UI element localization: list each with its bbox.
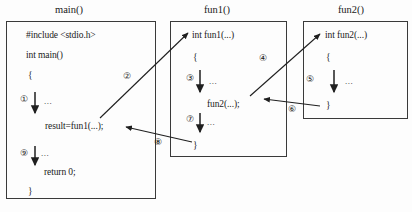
code-fun2-signature: int fun2(...) [325,30,367,40]
step-marker-6: ⑥ [288,105,296,114]
step-marker-7: ⑦ [186,115,194,124]
code-fun1-open-brace: { [193,52,197,62]
ellipsis-fun2-step5: ... [345,76,353,86]
code-main-signature: int main() [26,50,63,60]
ellipsis-main-step1: ... [44,96,52,106]
box-title-fun1: fun1() [194,4,240,15]
ellipsis-main-step9: ... [41,148,49,158]
step-marker-4: ④ [259,54,267,63]
step-marker-1: ① [20,95,28,104]
code-fun1-close-brace: } [193,140,197,150]
step-marker-9: ⑨ [20,149,28,158]
code-fun1-signature: int fun1(...) [192,30,234,40]
code-fun1-call-fun2: fun2(...); [207,99,240,109]
step-marker-3: ③ [186,74,194,83]
code-main-open-brace: { [28,70,32,80]
ellipsis-fun1-step3: ... [209,76,217,86]
box-main [6,21,156,199]
code-main-call-fun1: result=fun1(...); [45,121,103,131]
step-marker-2: ② [123,72,131,81]
code-fun2-open-brace: { [326,52,330,62]
code-main-return: return 0; [44,167,76,177]
ellipsis-fun1-step7: ... [207,117,215,127]
box-fun1 [170,21,287,157]
code-main-close-brace: } [28,186,32,196]
function-call-flow-diagram: main() fun1() fun2() #include <stdio.h> … [0,0,412,212]
code-fun2-close-brace: } [326,100,330,110]
step-marker-8: ⑧ [154,138,162,147]
step-marker-5: ⑤ [306,75,314,84]
box-title-fun2: fun2() [328,4,374,15]
code-main-include: #include <stdio.h> [26,30,96,40]
box-title-main: main() [46,4,92,15]
